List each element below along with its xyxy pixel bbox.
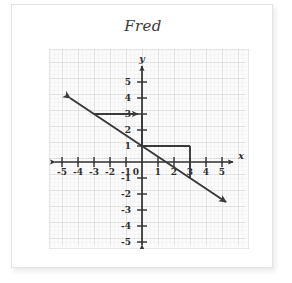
page-title: Fred	[12, 17, 274, 35]
y-tick-label: -2	[121, 189, 131, 199]
y-tick-label: 1	[125, 141, 131, 151]
x-tick-label: -4	[73, 167, 83, 177]
x-tick-label: 1	[155, 167, 161, 177]
y-tick-label: 2	[125, 125, 131, 135]
y-tick-label: -1	[121, 173, 131, 183]
x-tick-label: 5	[219, 167, 225, 177]
y-tick-label: 4	[125, 93, 131, 103]
graph-svg: -5 -4 -3 -2 -1 0 1 2 3 4 5 5 4 3 2	[49, 49, 249, 249]
x-tick-label: -2	[105, 167, 115, 177]
origin-label: 0	[133, 167, 139, 177]
y-tick-label: -5	[121, 237, 131, 247]
graph-card: Fred	[11, 4, 273, 268]
y-tick-label: -4	[121, 221, 131, 231]
grid-background	[49, 49, 249, 249]
x-tick-label: -3	[89, 167, 99, 177]
screenshot-root: Fred	[0, 0, 292, 283]
coordinate-plane: -5 -4 -3 -2 -1 0 1 2 3 4 5 5 4 3 2	[49, 49, 249, 249]
x-tick-label: -5	[57, 167, 67, 177]
y-tick-label: 5	[125, 77, 131, 87]
x-tick-label: 4	[203, 167, 209, 177]
y-tick-label: -3	[121, 205, 131, 215]
x-axis-label: x	[237, 150, 244, 161]
